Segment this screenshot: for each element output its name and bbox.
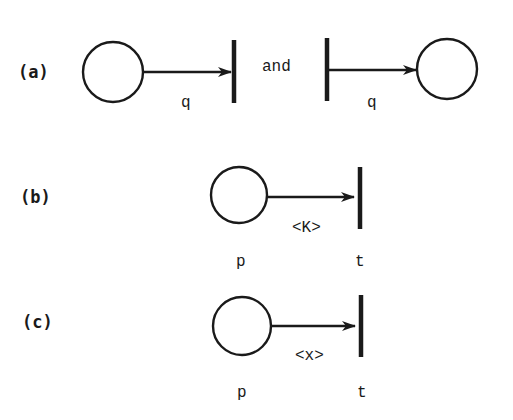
transition-c-name: t [357,384,367,402]
panel-b: (b) <K> p t [20,167,365,271]
arc-c-label: <x> [295,347,324,365]
arc-a-output-label: q [367,94,377,112]
connector-and: and [262,58,291,76]
transition-b-name: t [355,253,365,271]
petri-net-diagram: (a) q and q (b) <K> p t (c) <x> p t [0,0,513,420]
place-c-name: p [237,384,247,402]
place-b-p [211,167,267,223]
panel-b-label: (b) [20,187,51,207]
place-c-p [213,297,271,355]
panel-a-label: (a) [18,62,49,82]
panel-c-label: (c) [22,312,53,332]
place-b-name: p [236,253,246,271]
place-a-output [417,39,477,99]
panel-a: (a) q and q [18,38,477,112]
panel-c: (c) <x> p t [22,295,367,402]
arc-b-label: <K> [292,219,321,237]
arc-a-input-label: q [181,94,191,112]
place-a-input [83,42,143,102]
